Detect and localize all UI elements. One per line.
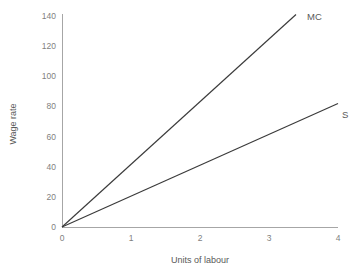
- x-tick-label-2: 2: [198, 233, 203, 243]
- y-tick-label-40: 40: [47, 162, 57, 172]
- series-label-s: S: [342, 109, 348, 120]
- x-tick-label-4: 4: [336, 233, 341, 243]
- y-axis-title: Wage rate: [8, 103, 18, 144]
- y-tick-label-120: 120: [42, 41, 56, 51]
- y-tick-label-20: 20: [47, 192, 57, 202]
- series-line-s: [62, 104, 338, 228]
- y-tick-label-140: 140: [42, 11, 56, 21]
- y-tick-label-100: 100: [42, 71, 56, 81]
- x-axis-title: Units of labour: [171, 255, 229, 265]
- plot-area: [62, 14, 338, 228]
- series-labels: MC S: [307, 11, 348, 120]
- y-tick-label-80: 80: [47, 101, 57, 111]
- y-tick-label-60: 60: [47, 132, 57, 142]
- series-line-mc: [62, 15, 296, 228]
- wage-rate-line-chart: 140 120 100 80 60 40 20 0 0 1 2 3 4 MC S…: [0, 0, 360, 275]
- y-tick-label-0: 0: [51, 222, 56, 232]
- y-axis-tick-labels: 140 120 100 80 60 40 20 0: [42, 11, 56, 232]
- x-tick-label-1: 1: [129, 233, 134, 243]
- x-axis-tick-labels: 0 1 2 3 4: [60, 233, 341, 243]
- x-tick-label-0: 0: [60, 233, 65, 243]
- data-series-group: [62, 15, 338, 228]
- series-label-mc: MC: [307, 11, 322, 22]
- x-tick-label-3: 3: [267, 233, 272, 243]
- chart-container: 140 120 100 80 60 40 20 0 0 1 2 3 4 MC S…: [0, 0, 360, 275]
